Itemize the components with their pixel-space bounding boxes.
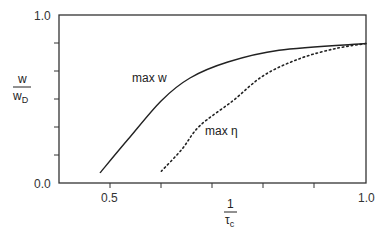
series-max-w-line <box>100 44 366 173</box>
y-tick-label-bottom: 0.0 <box>34 177 51 191</box>
x-axis-label-denominator: τc <box>225 213 235 229</box>
plot-frame <box>59 15 366 183</box>
x-ticks <box>110 183 314 188</box>
series-max-eta-line <box>161 44 366 172</box>
series-label-max-eta: max η <box>205 124 238 138</box>
y-axis-label-numerator: w <box>17 72 27 86</box>
x-axis-label-numerator: 1 <box>227 197 234 211</box>
x-axis-label: 1 τc <box>224 197 237 229</box>
x-tick-label-left: 0.5 <box>101 191 118 205</box>
x-tick-label-right: 1.0 <box>358 191 375 205</box>
series-label-max-w: max w <box>132 71 167 85</box>
y-axis-label-denominator: wD <box>12 89 29 105</box>
y-axis-label: w wD <box>12 72 31 105</box>
y-tick-label-top: 1.0 <box>34 9 51 23</box>
chart: 1.0 0.0 0.5 1.0 w wD 1 τc max w max η <box>0 0 385 235</box>
y-ticks <box>54 43 59 155</box>
